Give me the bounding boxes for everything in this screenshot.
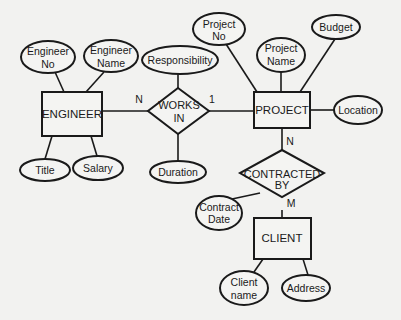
attribute-project-name: Project Name <box>257 38 305 72</box>
edge-title <box>45 136 52 159</box>
attribute-engineer-no: Engineer No <box>21 41 75 73</box>
attribute-client-name-line1: Client <box>231 276 258 288</box>
attribute-responsibility: Responsibility <box>142 46 218 74</box>
attribute-contract-date-line1: Contract <box>199 201 239 213</box>
er-diagram: N 1 N M ENGINEER PROJECT CLIENT WORKS IN… <box>0 0 401 320</box>
edge-salary <box>91 136 97 156</box>
edge-address <box>303 259 308 275</box>
attribute-address-label: Address <box>287 282 326 294</box>
attribute-budget-label: Budget <box>319 21 352 33</box>
relationship-contracted-by-line2: BY <box>275 179 290 191</box>
entity-project-label: PROJECT <box>255 104 309 116</box>
edge-client-name <box>254 259 263 272</box>
attribute-project-no-line1: Project <box>203 18 236 30</box>
cardinality-works-in-project: 1 <box>209 93 215 105</box>
edge-engineer-name <box>86 72 104 92</box>
relationship-contracted-by: CONTRACTED BY <box>240 150 324 197</box>
attribute-address: Address <box>282 275 330 301</box>
edge-engineer-no <box>55 72 64 92</box>
attribute-engineer-name-line1: Engineer <box>90 44 133 56</box>
attribute-engineer-name-line2: Name <box>97 57 125 69</box>
entity-client: CLIENT <box>254 218 311 259</box>
attribute-engineer-no-line2: No <box>41 58 55 70</box>
attribute-salary-label: Salary <box>83 162 114 174</box>
relationship-works-in-diamond <box>148 88 209 134</box>
attribute-client-name: Client name <box>220 271 268 305</box>
entity-engineer: ENGINEER <box>42 92 102 136</box>
attribute-contract-date: Contract Date <box>196 196 242 230</box>
attribute-engineer-name: Engineer Name <box>84 40 138 72</box>
attribute-salary: Salary <box>73 156 123 180</box>
attribute-contract-date-line2: Date <box>208 213 230 225</box>
attribute-title-label: Title <box>35 164 55 176</box>
attribute-location-label: Location <box>338 104 378 116</box>
attribute-engineer-no-line1: Engineer <box>27 45 70 57</box>
attribute-location: Location <box>334 96 382 124</box>
attribute-project-name-line2: Name <box>267 55 295 67</box>
entity-engineer-label: ENGINEER <box>42 108 102 120</box>
edge-contract-date <box>232 193 260 199</box>
relationship-works-in-line1: WORKS <box>158 99 200 111</box>
attribute-responsibility-label: Responsibility <box>148 54 214 66</box>
attribute-title: Title <box>20 159 70 181</box>
attribute-duration-label: Duration <box>158 166 198 178</box>
relationship-works-in-line2: IN <box>174 112 185 124</box>
attribute-project-no-line2: No <box>212 30 226 42</box>
attribute-project-no: Project No <box>193 13 245 45</box>
attribute-client-name-line2: name <box>231 289 257 301</box>
cardinality-contracted-by-client: M <box>287 197 296 209</box>
relationship-works-in: WORKS IN <box>148 88 209 134</box>
entity-project: PROJECT <box>254 92 310 128</box>
edge-project-no <box>226 44 257 92</box>
attribute-budget: Budget <box>312 15 360 39</box>
cardinality-project-contracted-by: N <box>286 135 294 147</box>
edge-budget <box>300 39 335 92</box>
cardinality-engineer-works-in: N <box>135 93 143 105</box>
attribute-project-name-line1: Project <box>265 42 298 54</box>
attribute-duration: Duration <box>150 161 206 183</box>
entity-client-label: CLIENT <box>262 232 303 244</box>
